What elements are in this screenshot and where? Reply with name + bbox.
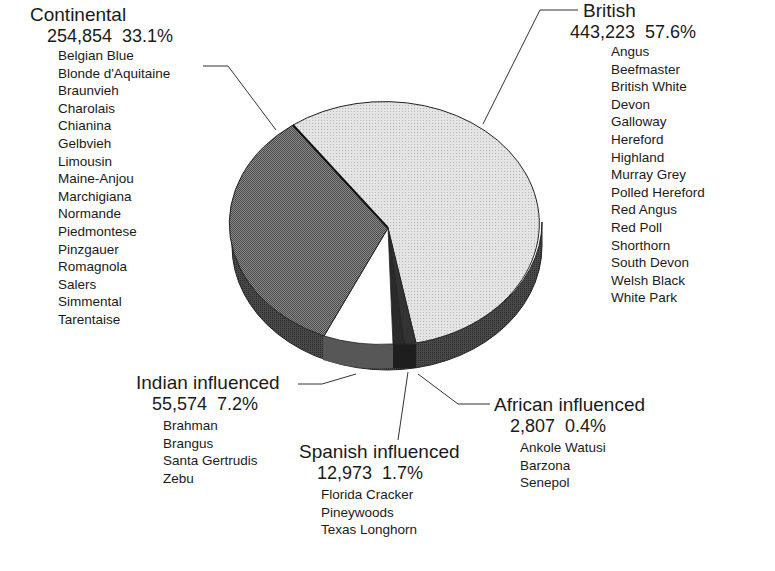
breed: Normande bbox=[58, 205, 173, 223]
breed-list: Brahman Brangus Santa Gertrudis Zebu bbox=[163, 417, 280, 487]
category-name: African influenced bbox=[494, 394, 645, 416]
category-stats: 12,973 1.7% bbox=[317, 463, 460, 484]
breed: Maine-Anjou bbox=[58, 170, 173, 188]
breed: Hereford bbox=[611, 131, 705, 149]
breed: Charolais bbox=[58, 100, 173, 118]
breed: Angus bbox=[611, 43, 705, 61]
breed: Santa Gertrudis bbox=[163, 452, 280, 470]
breed: Brangus bbox=[163, 435, 280, 453]
category-stats: 55,574 7.2% bbox=[152, 394, 280, 415]
breed: Romagnola bbox=[58, 258, 173, 276]
breed: Murray Grey bbox=[611, 166, 705, 184]
category-stats: 443,223 57.6% bbox=[570, 22, 705, 43]
breed: British White bbox=[611, 78, 705, 96]
category-name: Indian influenced bbox=[136, 372, 280, 394]
label-british: British 443,223 57.6% Angus Beefmaster B… bbox=[583, 0, 705, 307]
breed: Piedmontese bbox=[58, 223, 173, 241]
category-stats: 254,854 33.1% bbox=[47, 26, 173, 47]
breed: Senepol bbox=[520, 474, 645, 492]
category-name: British bbox=[583, 0, 705, 22]
breed: Pineywoods bbox=[321, 504, 460, 522]
breed: Belgian Blue bbox=[58, 47, 173, 65]
breed: Tarentaise bbox=[58, 311, 173, 329]
breed-list: Angus Beefmaster British White Devon Gal… bbox=[611, 43, 705, 307]
breed: Salers bbox=[58, 276, 173, 294]
breed: Pinzgauer bbox=[58, 241, 173, 259]
breed: Highland bbox=[611, 149, 705, 167]
breed: Simmental bbox=[58, 293, 173, 311]
label-indian: Indian influenced 55,574 7.2% Brahman Br… bbox=[136, 372, 280, 487]
breed: Welsh Black bbox=[611, 272, 705, 290]
breed: Blonde d'Aquitaine bbox=[58, 65, 173, 83]
breed: Brahman bbox=[163, 417, 280, 435]
breed: Shorthorn bbox=[611, 237, 705, 255]
breed: White Park bbox=[611, 289, 705, 307]
breed: Gelbvieh bbox=[58, 135, 173, 153]
label-african: African influenced 2,807 0.4% Ankole Wat… bbox=[494, 394, 645, 492]
breed-list: Florida Cracker Pineywoods Texas Longhor… bbox=[321, 486, 460, 539]
breed: Galloway bbox=[611, 113, 705, 131]
label-continental: Continental 254,854 33.1% Belgian Blue B… bbox=[30, 4, 173, 329]
category-stats: 2,807 0.4% bbox=[510, 416, 645, 437]
breed: Polled Hereford bbox=[611, 184, 705, 202]
breed: Ankole Watusi bbox=[520, 439, 645, 457]
category-name: Continental bbox=[30, 4, 173, 26]
breed-list: Ankole Watusi Barzona Senepol bbox=[520, 439, 645, 492]
breed: Texas Longhorn bbox=[321, 521, 460, 539]
breed: Florida Cracker bbox=[321, 486, 460, 504]
breed: Beefmaster bbox=[611, 61, 705, 79]
breed-list: Belgian Blue Blonde d'Aquitaine Braunvie… bbox=[58, 47, 173, 329]
breed: Marchigiana bbox=[58, 188, 173, 206]
category-name: Spanish influenced bbox=[299, 441, 460, 463]
breed: Red Angus bbox=[611, 201, 705, 219]
breed: Limousin bbox=[58, 153, 173, 171]
breed: Zebu bbox=[163, 470, 280, 488]
label-spanish: Spanish influenced 12,973 1.7% Florida C… bbox=[299, 441, 460, 539]
breed: Devon bbox=[611, 96, 705, 114]
breed: Chianina bbox=[58, 117, 173, 135]
breed: Barzona bbox=[520, 457, 645, 475]
breed: South Devon bbox=[611, 254, 705, 272]
breed: Red Poll bbox=[611, 219, 705, 237]
breed: Braunvieh bbox=[58, 82, 173, 100]
